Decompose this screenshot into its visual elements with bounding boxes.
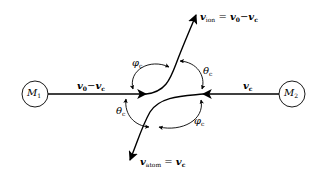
phi-symbol: φ [132, 57, 139, 68]
node-m1-label: M1 [27, 88, 41, 99]
theta-lower-label: θc [116, 106, 125, 117]
node-m1-symbol: M [27, 87, 37, 98]
theta-upper-arc [180, 61, 203, 89]
phi-symbol: φ [194, 115, 201, 126]
phi-upper-label: φc [132, 58, 142, 69]
node-m2-symbol: M [284, 87, 294, 98]
ion-velocity-label: vion = v0−vc [200, 12, 258, 23]
node-m1-subscript: 1 [37, 92, 41, 99]
subscript: c [101, 85, 105, 92]
subscript: ion [206, 16, 215, 23]
subscript: atom [146, 161, 161, 168]
subscript: c [182, 161, 186, 168]
left-velocity-label: v0−vc [77, 81, 105, 92]
atom-velocity-label: vatom = vc [140, 157, 185, 168]
node-m2-label: M2 [284, 88, 298, 99]
equals-operator: = [215, 11, 230, 22]
phi-lower-label: φc [194, 116, 204, 127]
equals-operator: = [161, 156, 176, 167]
ion-trajectory [146, 15, 196, 94]
subscript: c [249, 85, 253, 92]
theta-upper-label: θc [203, 66, 212, 77]
atom-trajectory [130, 94, 203, 160]
subscript: c [254, 16, 258, 23]
subscript: c [122, 110, 125, 117]
subscript: c [139, 62, 142, 69]
subscript: c [201, 120, 204, 127]
right-velocity-label: vc [243, 81, 252, 92]
theta-lower-arc [126, 99, 149, 127]
node-m2-subscript: 2 [294, 92, 298, 99]
collision-diagram [0, 0, 326, 181]
subscript: c [209, 70, 212, 77]
